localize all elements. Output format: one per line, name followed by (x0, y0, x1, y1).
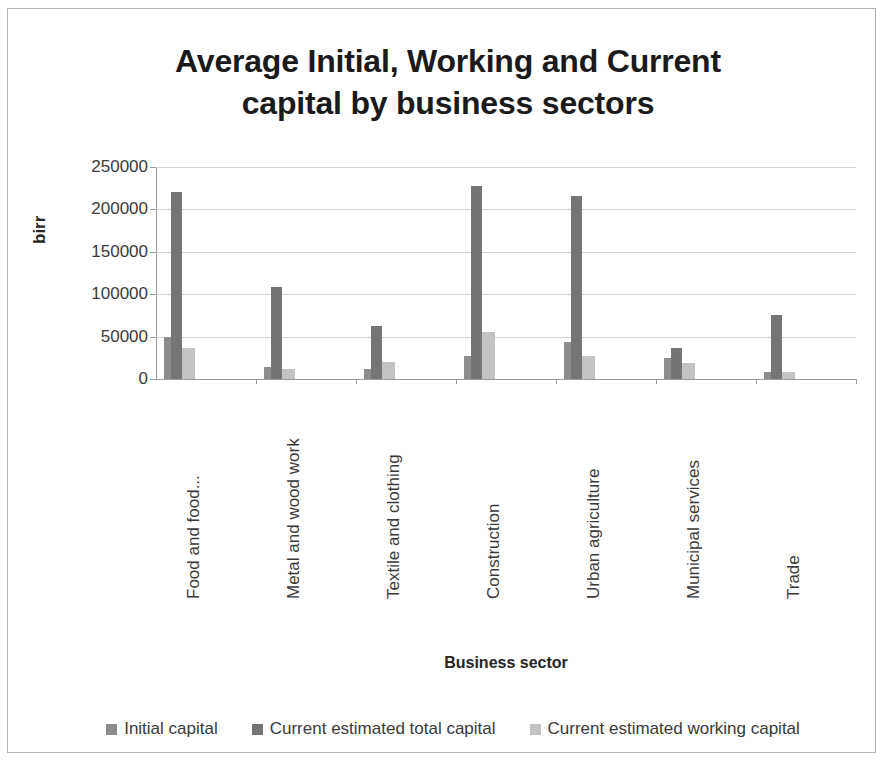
bar-1 (271, 287, 282, 379)
legend-swatch-icon (106, 724, 117, 735)
chart-title: Average Initial, Working and Current cap… (88, 41, 808, 124)
legend-item[interactable]: Initial capital (106, 719, 218, 739)
chart-title-line-2: capital by business sectors (88, 83, 808, 125)
x-axis-category-labels: Food and food...Metal and wood workTexti… (156, 387, 856, 602)
bar-group (456, 167, 556, 379)
y-axis-tick-label: 100000 (91, 284, 148, 304)
bar-group (756, 167, 856, 379)
y-axis-tick-label: 200000 (91, 199, 148, 219)
legend-item[interactable]: Current estimated working capital (530, 719, 800, 739)
plot-area (156, 167, 856, 379)
chart-title-line-1: Average Initial, Working and Current (175, 43, 721, 79)
x-axis-tick (656, 379, 657, 384)
x-axis-tick (456, 379, 457, 384)
x-axis-category-label: Construction (484, 504, 504, 599)
bar-1 (371, 326, 382, 379)
x-axis-title: Business sector (156, 654, 856, 672)
bar-1 (771, 315, 782, 379)
chart-legend: Initial capitalCurrent estimated total c… (68, 719, 838, 739)
x-axis-category-label: Food and food... (184, 475, 204, 599)
legend-label: Current estimated working capital (548, 719, 800, 739)
bar-group (356, 167, 456, 379)
bar-1 (171, 192, 182, 379)
legend-swatch-icon (530, 724, 541, 735)
x-axis-tick (556, 379, 557, 384)
bar-group (556, 167, 656, 379)
y-axis-title: birr (30, 216, 50, 244)
y-axis-tick-label: 150000 (91, 242, 148, 262)
bar-1 (571, 196, 582, 379)
y-axis-tick-label: 250000 (91, 157, 148, 177)
y-axis-tick-label: 50000 (101, 327, 148, 347)
legend-item[interactable]: Current estimated total capital (252, 719, 496, 739)
chart-frame: Average Initial, Working and Current cap… (7, 8, 876, 753)
y-axis-tick (150, 379, 156, 380)
x-axis-category-label: Textile and clothing (384, 454, 404, 599)
bar-group (256, 167, 356, 379)
bar-1 (471, 186, 482, 379)
x-axis-tick (856, 379, 857, 384)
x-axis-tick (356, 379, 357, 384)
x-axis-tick (256, 379, 257, 384)
x-axis-category-label: Urban agriculture (584, 469, 604, 599)
legend-label: Initial capital (124, 719, 218, 739)
x-axis-category-label: Municipal services (684, 460, 704, 599)
bar-group (156, 167, 256, 379)
y-axis-tick-labels: 250000200000150000100000500000 (48, 167, 148, 379)
x-axis-tick (756, 379, 757, 384)
legend-label: Current estimated total capital (270, 719, 496, 739)
x-axis-category-label: Metal and wood work (284, 438, 304, 599)
x-axis-line (156, 379, 856, 380)
chart-page: Average Initial, Working and Current cap… (0, 0, 885, 763)
bar-group (656, 167, 756, 379)
bar-1 (671, 348, 682, 379)
legend-swatch-icon (252, 724, 263, 735)
y-axis-tick-label: 0 (139, 369, 148, 389)
x-axis-category-label: Trade (784, 555, 804, 599)
